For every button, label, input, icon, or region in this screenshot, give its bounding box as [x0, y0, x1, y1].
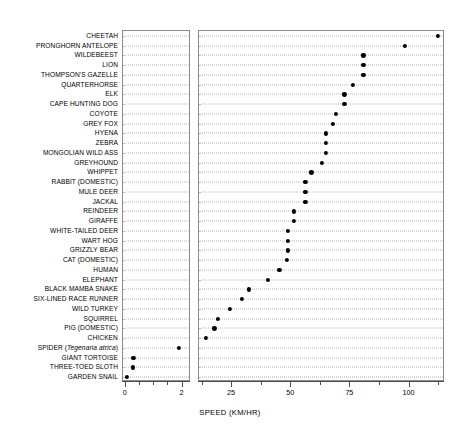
category-label: HUMAN	[0, 265, 118, 272]
category-label: CHEETAH	[0, 31, 118, 38]
axis-tick-major	[349, 382, 350, 387]
category-label: GREY FOX	[0, 119, 118, 126]
category-label: GARDEN SNAIL	[0, 373, 118, 380]
category-label: WILDEBEEST	[0, 51, 118, 58]
grid-row	[123, 260, 189, 262]
category-label: GRIZZLY BEAR	[0, 246, 118, 253]
category-label: PRONGHORN ANTELOPE	[0, 41, 118, 48]
grid-row	[199, 152, 443, 154]
grid-row	[199, 328, 443, 330]
grid-row	[199, 318, 443, 320]
axis-tick-minor	[167, 382, 168, 385]
grid-row	[123, 74, 189, 76]
grid-row	[199, 143, 443, 145]
grid-row	[199, 367, 443, 369]
grid-row	[199, 347, 443, 349]
grid-row	[199, 240, 443, 242]
grid-row	[199, 104, 443, 106]
grid-row	[199, 113, 443, 115]
category-label: WHIPPET	[0, 168, 118, 175]
category-label: MULE DEER	[0, 187, 118, 194]
grid-row	[199, 221, 443, 223]
category-label: MONGOLIAN WILD ASS	[0, 148, 118, 155]
axis-tick-label: 100	[403, 389, 415, 397]
axis-tick-minor	[139, 382, 140, 385]
grid-row	[199, 357, 443, 359]
grid-row	[123, 113, 189, 115]
left-axis-panel	[122, 30, 190, 381]
axis-tick-minor	[153, 382, 154, 385]
grid-row	[199, 269, 443, 271]
grid-row	[123, 104, 189, 106]
axis-tick-minor	[261, 382, 262, 385]
grid-row	[123, 221, 189, 223]
grid-row	[123, 279, 189, 281]
category-label: THREE-TOED SLOTH	[0, 363, 118, 370]
grid-row	[123, 338, 189, 340]
animal-speed-dot-plot-figure: CHEETAHPRONGHORN ANTELOPEWILDEBEESTLIONT…	[0, 0, 460, 443]
category-label: GIANT TORTOISE	[0, 353, 118, 360]
grid-row	[123, 250, 189, 252]
grid-row	[199, 74, 443, 76]
grid-row	[199, 250, 443, 252]
grid-row	[123, 318, 189, 320]
category-label: JACKAL	[0, 197, 118, 204]
left-panel-axis-line	[122, 381, 190, 382]
grid-row	[123, 201, 189, 203]
grid-row	[123, 84, 189, 86]
grid-row	[123, 172, 189, 174]
grid-row	[199, 201, 443, 203]
axis-tick-major	[290, 382, 291, 387]
category-label: SQUIRREL	[0, 314, 118, 321]
grid-row	[123, 152, 189, 154]
category-label: BLACK MAMBA SNAKE	[0, 285, 118, 292]
grid-row	[199, 84, 443, 86]
grid-row	[123, 35, 189, 37]
grid-row	[123, 211, 189, 213]
grid-row	[123, 94, 189, 96]
category-label: GREYHOUND	[0, 158, 118, 165]
category-label: WILD TURKEY	[0, 304, 118, 311]
grid-row	[199, 299, 443, 301]
category-label: THOMPSON'S GAZELLE	[0, 70, 118, 77]
category-label: REINDEER	[0, 207, 118, 214]
grid-row	[123, 308, 189, 310]
grid-row	[199, 65, 443, 67]
right-panel-axis-line	[198, 381, 444, 382]
grid-row	[123, 269, 189, 271]
grid-row	[123, 299, 189, 301]
grid-row	[123, 191, 189, 193]
category-label: GIRAFFE	[0, 217, 118, 224]
grid-row	[123, 45, 189, 47]
grid-row	[123, 133, 189, 135]
grid-row	[199, 94, 443, 96]
category-label: ZEBRA	[0, 139, 118, 146]
category-label: HYENA	[0, 129, 118, 136]
grid-row	[199, 289, 443, 291]
category-label: ELK	[0, 90, 118, 97]
axis-tick-minor	[202, 382, 203, 385]
grid-row	[123, 289, 189, 291]
grid-row	[123, 55, 189, 57]
axis-tick-label: 0	[123, 389, 127, 397]
category-label: WHITE-TAILED DEER	[0, 226, 118, 233]
grid-row	[123, 143, 189, 145]
grid-row	[123, 123, 189, 125]
axis-tick-label: 25	[227, 389, 235, 397]
category-label: SIX-LINED RACE RUNNER	[0, 295, 118, 302]
category-label: RABBIT (DOMESTIC)	[0, 178, 118, 185]
grid-row	[123, 65, 189, 67]
axis-tick-major	[231, 382, 232, 387]
axis-tick-minor	[438, 382, 439, 385]
grid-row	[199, 172, 443, 174]
grid-row	[123, 230, 189, 232]
grid-row	[199, 338, 443, 340]
grid-row	[199, 308, 443, 310]
category-label: QUARTERHORSE	[0, 80, 118, 87]
axis-tick-major	[125, 382, 126, 387]
category-label: PIG (DOMESTIC)	[0, 324, 118, 331]
category-label: SPIDER (Tegenaria atrica)	[0, 343, 118, 350]
grid-row	[123, 328, 189, 330]
grid-row	[199, 211, 443, 213]
grid-row	[199, 123, 443, 125]
